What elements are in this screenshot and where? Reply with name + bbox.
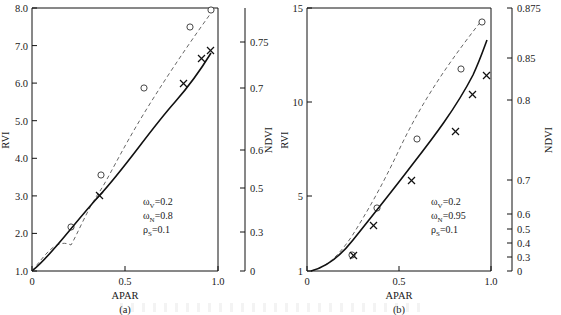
- ytick-left-b-1: 10: [293, 97, 304, 108]
- ytick-right-a-4: 0.3: [250, 227, 263, 238]
- ytick-right-b-7: 0.3: [517, 252, 530, 263]
- ytick-left-a-2: 6.0: [15, 78, 28, 89]
- ytick-right-b-6: 0.4: [517, 238, 531, 249]
- yaxis-title-right-a: NDVI: [263, 126, 274, 153]
- ytick-left-a-5: 3.0: [15, 191, 28, 202]
- series-ndvi-curve-b: [311, 40, 487, 271]
- annotation-group-b: ωV=0.2 ωN=0.95 ρS=0.1: [431, 196, 466, 238]
- ytick-right-a-5: 0: [250, 266, 255, 277]
- xaxis-title-a: APAR: [111, 290, 138, 301]
- yaxis-title-left-a: RVI: [0, 131, 11, 149]
- chart-svg-a: 8.0 7.0 6.0 5.0 4.0 3.0 2.0 1.0 0.75 0.7…: [0, 0, 280, 315]
- ytick-right-b-3: 0.7: [517, 175, 530, 186]
- xtick-a-2: 1.0: [211, 276, 224, 287]
- xtick-group-b: 0 0.5 1.0: [304, 266, 497, 287]
- series-rvi-markers-b: [349, 19, 485, 258]
- ytick-left-a-0: 8.0: [15, 3, 28, 14]
- ytick-left-a-4: 4.0: [15, 153, 28, 164]
- ytick-right-b-2: 0.8: [517, 95, 530, 106]
- ytick-right-a-0: 0.75: [250, 37, 268, 48]
- ytick-left-b-2: 5: [298, 191, 303, 202]
- annotation-a-0: ωV=0.2: [143, 196, 173, 210]
- annotation-group-a: ωV=0.2 ωN=0.8 ρS=0.1: [143, 196, 173, 238]
- series-ndvi-markers-b: [350, 72, 490, 259]
- annotation-a-1: ωN=0.8: [143, 210, 173, 224]
- ytick-right-b-8: 0: [517, 266, 522, 277]
- xtick-b-2: 1.0: [484, 276, 497, 287]
- ytick-right-a-1: 0.7: [250, 83, 263, 94]
- figure-container: 8.0 7.0 6.0 5.0 4.0 3.0 2.0 1.0 0.75 0.7…: [0, 0, 561, 315]
- ytick-group-left-a: 8.0 7.0 6.0 5.0 4.0 3.0 2.0 1.0: [15, 3, 37, 277]
- ytick-right-b-0: 0.875: [517, 3, 541, 14]
- ytick-group-right-a: 0.75 0.7 0.6 0.5 0.3 0: [240, 37, 268, 277]
- series-ndvi-curve-a: [32, 53, 211, 271]
- series-ndvi-markers-a: [96, 47, 214, 199]
- ytick-left-a-3: 5.0: [15, 116, 28, 127]
- yaxis-title-left-b: RVI: [281, 131, 290, 149]
- annotation-b-2: ρS=0.1: [431, 224, 458, 238]
- annotation-b-1: ωN=0.95: [431, 210, 466, 224]
- series-rvi-curve-a: [32, 13, 211, 271]
- ytick-right-b-1: 0.85: [517, 53, 535, 64]
- xtick-a-0: 0: [29, 276, 34, 287]
- axes-b: [307, 8, 512, 271]
- annotation-a-2: ρS=0.1: [143, 224, 170, 238]
- yaxis-title-right-b: NDVI: [543, 126, 554, 153]
- xtick-a-1: 0.5: [118, 276, 131, 287]
- ytick-right-b-5: 0.5: [517, 224, 530, 235]
- xtick-b-1: 0.5: [392, 276, 405, 287]
- xtick-b-0: 0: [304, 276, 309, 287]
- ytick-right-b-4: 0.6: [517, 209, 530, 220]
- chart-panel-b: 15 10 5 1 0.875 0.85 0.8 0.7 0.6: [281, 0, 561, 315]
- ytick-left-b-0: 15: [293, 3, 304, 14]
- ytick-left-a-7: 1.0: [15, 266, 28, 277]
- ytick-left-a-1: 7.0: [15, 41, 28, 52]
- annotation-b-0: ωV=0.2: [431, 196, 461, 210]
- xtick-group-a: 0 0.5 1.0: [29, 266, 224, 287]
- xaxis-title-b: APAR: [385, 290, 412, 301]
- ytick-left-a-6: 2.0: [15, 228, 28, 239]
- ytick-right-a-3: 0.5: [250, 183, 263, 194]
- chart-svg-b: 15 10 5 1 0.875 0.85 0.8 0.7 0.6: [281, 0, 561, 315]
- chart-panel-a: 8.0 7.0 6.0 5.0 4.0 3.0 2.0 1.0 0.75 0.7…: [0, 0, 280, 315]
- ytick-right-a-2: 0.6: [250, 145, 263, 156]
- ytick-left-b-3: 1: [298, 266, 303, 277]
- scan-artifact: [120, 303, 420, 312]
- ytick-group-left-b: 15 10 5 1: [293, 3, 313, 277]
